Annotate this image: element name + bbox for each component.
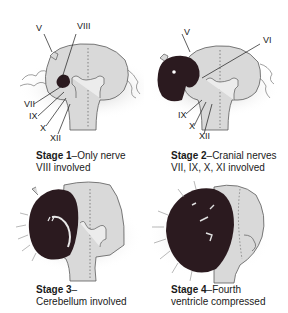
nerve-label-xii: XII: [199, 132, 210, 141]
stage-4-brainstem-illustration: [144, 175, 288, 285]
stage-2-brainstem-illustration: [144, 0, 288, 150]
stage-1-brainstem-illustration: [0, 0, 144, 150]
stage-4-caption: Stage 4–Fourth ventricle compressed: [171, 284, 265, 308]
stage-2-desc-line2: VII, IX, X, XI involved: [171, 162, 265, 173]
nerve-label-viii: VIII: [77, 22, 91, 31]
stage-3-caption: Stage 3– Cerebellum involved: [36, 284, 127, 308]
stage-1-desc: –Only nerve: [72, 150, 126, 161]
stage-2-title: Stage 2: [171, 150, 207, 161]
nerve-label-xii: XII: [50, 134, 61, 143]
stage-2-desc: –Cranial nerves: [207, 150, 277, 161]
stage-3-panel: Stage 3– Cerebellum involved: [0, 175, 144, 313]
stage-1-caption: Stage 1–Only nerve VIII involved: [36, 150, 126, 174]
stage-4-title: Stage 4: [171, 284, 207, 295]
stage-4-desc-line2: ventricle compressed: [171, 296, 265, 307]
nerve-label-x: X: [40, 124, 46, 133]
stage-1-panel: V VIII VII IX X XII Stage 1–Only nerve V…: [0, 0, 144, 175]
nerve-label-v: V: [184, 28, 190, 37]
stage-1-title: Stage 1: [36, 150, 72, 161]
stage-3-desc-line2: Cerebellum involved: [36, 296, 127, 307]
nerve-label-x: X: [189, 122, 195, 131]
nerve-label-v: V: [36, 24, 42, 33]
stage-3-title: Stage 3: [36, 284, 72, 295]
nerve-label-vii: VII: [24, 100, 35, 109]
stage-3-brainstem-illustration: [0, 175, 144, 285]
nerve-label-vi: VI: [263, 36, 272, 45]
nerve-label-ix: IX: [178, 111, 187, 120]
nerve-label-ix: IX: [29, 112, 38, 121]
stage-1-desc-line2: VIII involved: [36, 162, 90, 173]
stage-4-panel: Stage 4–Fourth ventricle compressed: [144, 175, 288, 313]
stage-3-desc: –: [72, 284, 78, 295]
stage-2-caption: Stage 2–Cranial nerves VII, IX, X, XI in…: [171, 150, 277, 174]
stage-2-panel: V VI IX X XII Stage 2–Cranial nerves VII…: [144, 0, 288, 175]
stage-4-desc: –Fourth: [207, 284, 241, 295]
